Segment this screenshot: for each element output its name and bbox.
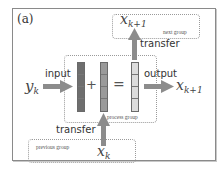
- input-label: input: [45, 68, 71, 79]
- subscript: k+1: [184, 85, 203, 95]
- output-label: output: [144, 68, 177, 79]
- symbol-x: x: [176, 77, 184, 93]
- output-arrow: [144, 80, 174, 93]
- transfer-label-bottom: transfer: [56, 124, 96, 135]
- output-target-symbol: xk+1: [176, 77, 203, 95]
- subscript: k: [33, 86, 38, 96]
- transfer-label-top: transfer: [140, 38, 180, 49]
- transfer-up-arrow-bottom: [97, 113, 110, 146]
- input-arrow: [43, 80, 73, 93]
- input-source-symbol: yk: [25, 77, 39, 96]
